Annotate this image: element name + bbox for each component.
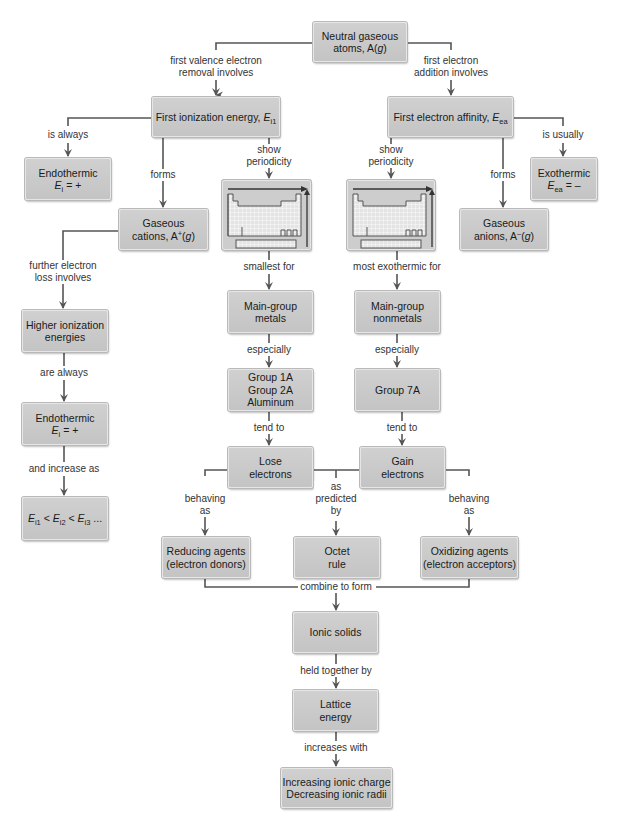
label-and-increase-as: and increase as	[28, 463, 101, 475]
node-gain-electrons: Gain electrons	[360, 447, 445, 488]
label-tend-to-right: tend to	[386, 422, 419, 434]
node-endothermic-first: Endothermic Ei = +	[25, 158, 111, 200]
label-tend-to-left: tend to	[253, 422, 286, 434]
label-are-always: are always	[39, 367, 89, 379]
node-group-7a: Group 7A	[355, 369, 440, 411]
periodic-table-trend-left	[222, 180, 311, 250]
label-most-exothermic-for: most exothermic for	[352, 261, 442, 273]
node-endothermic-higher: Endothermic Ei = +	[22, 403, 108, 445]
label-further-loss: further electron loss involves	[28, 260, 97, 284]
label-increases-with: increases with	[303, 742, 368, 754]
node-lose-electrons: Lose electrons	[228, 447, 313, 488]
node-groups-1a-2a-aluminum: Group 1A Group 2A Aluminum	[228, 369, 313, 411]
label-especially-left: especially	[246, 344, 292, 356]
node-first-ionization-energy: First ionization energy, Ei1	[152, 97, 280, 137]
node-gaseous-cations: Gaseous cations, A+(g)	[119, 209, 208, 250]
label-forms-right: forms	[490, 169, 517, 181]
node-lattice-energy: Lattice energy	[293, 690, 378, 731]
periodic-table-trend-icon	[348, 181, 436, 251]
node-gaseous-anions: Gaseous anions, A–(g)	[460, 209, 548, 250]
node-first-electron-affinity: First electron affinity, Eea	[388, 97, 513, 137]
label-is-always: is always	[47, 129, 90, 141]
label-first-addition: first electron addition involves	[413, 55, 489, 79]
node-octet-rule: Octet rule	[294, 537, 380, 578]
node-neutral-gaseous-atoms: Neutral gaseous atoms, A(g)	[313, 22, 407, 62]
label-combine-to-form: combine to form	[299, 581, 373, 593]
label-especially-right: especially	[374, 344, 420, 356]
label-show-periodicity-left: show periodicity	[245, 144, 292, 168]
node-reducing-agents: Reducing agents (electron donors)	[162, 537, 250, 578]
periodic-table-trend-icon	[223, 181, 312, 251]
periodic-table-trend-right	[347, 180, 435, 250]
node-ionic-solids: Ionic solids	[293, 612, 378, 653]
node-main-group-metals: Main-group metals	[228, 291, 313, 333]
node-main-group-nonmetals: Main-group nonmetals	[355, 291, 440, 333]
label-first-valence-removal: first valence electron removal involves	[169, 55, 263, 79]
label-forms-left: forms	[150, 169, 177, 181]
node-higher-ionization-energies: Higher ionization energies	[22, 310, 108, 352]
label-behaving-as-left: behaving as	[184, 493, 227, 517]
node-exothermic: Exothermic Eea = –	[531, 158, 597, 200]
node-oxidizing-agents: Oxidizing agents (electron acceptors)	[421, 537, 518, 578]
label-is-usually: is usually	[541, 129, 584, 141]
label-smallest-for: smallest for	[242, 261, 295, 273]
label-show-periodicity-right: show periodicity	[367, 144, 414, 168]
node-ionic-charge-radii: Increasing ionic charge Decreasing ionic…	[281, 768, 392, 808]
label-behaving-as-right: behaving as	[448, 493, 491, 517]
label-as-predicted-by: as predicted by	[314, 481, 357, 517]
label-held-together-by: held together by	[299, 665, 373, 677]
node-ionization-order: Ei1 < Ei2 < Ei3 ...	[22, 497, 108, 540]
